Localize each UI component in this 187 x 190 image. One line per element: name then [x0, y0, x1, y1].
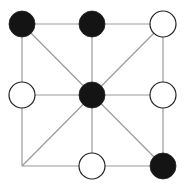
game-board [0, 0, 187, 190]
black-piece [79, 82, 105, 108]
white-piece [9, 82, 35, 108]
white-piece [150, 11, 176, 37]
black-piece [9, 11, 35, 37]
black-piece [79, 11, 105, 37]
white-piece [150, 82, 176, 108]
black-piece [150, 153, 176, 179]
white-piece [79, 153, 105, 179]
